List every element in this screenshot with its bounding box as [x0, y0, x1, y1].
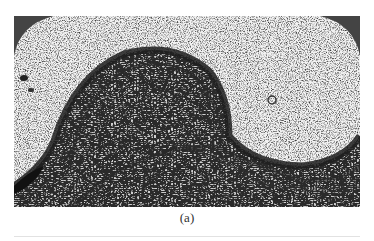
micrograph-image [14, 16, 360, 207]
divider-line [14, 236, 360, 237]
micrograph-figure [14, 16, 360, 207]
figure-caption: (a) [0, 210, 374, 226]
